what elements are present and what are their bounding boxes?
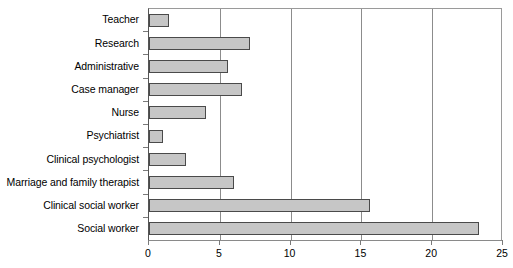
bar-slot (149, 194, 501, 217)
y-axis-label-teacher: Teacher (0, 8, 144, 31)
y-axis-label-clinical-psychologist: Clinical psychologist (0, 147, 144, 170)
bar-slot (149, 32, 501, 55)
bar-nurse (149, 106, 206, 119)
bar-teacher (149, 14, 169, 27)
plot-area (148, 8, 502, 240)
bar-research (149, 37, 250, 50)
x-tick-25 (502, 240, 503, 245)
bar-series (149, 9, 501, 240)
y-axis-label-research: Research (0, 31, 144, 54)
x-tick-label-5: 5 (216, 248, 222, 259)
bar-slot (149, 55, 501, 78)
x-tick-0 (148, 240, 149, 245)
x-tick-label-10: 10 (284, 248, 296, 259)
x-tick-label-25: 25 (496, 248, 508, 259)
bar-case-manager (149, 83, 242, 96)
bar-slot (149, 171, 501, 194)
bar-chart: Teacher Research Administrative Case man… (0, 0, 513, 268)
bar-slot (149, 78, 501, 101)
y-axis-label-marriage-and-family-therapist: Marriage and family therapist (0, 170, 144, 193)
x-axis-line (148, 240, 502, 241)
bar-administrative (149, 60, 228, 73)
bar-social-worker (149, 222, 479, 235)
x-tick-20 (431, 240, 432, 245)
bar-slot (149, 101, 501, 124)
bar-clinical-social-worker (149, 199, 370, 212)
bar-slot (149, 124, 501, 147)
bar-slot (149, 148, 501, 171)
bar-marriage-and-family-therapist (149, 176, 234, 189)
x-tick-label-0: 0 (145, 248, 151, 259)
y-axis-label-nurse: Nurse (0, 101, 144, 124)
bar-psychiatrist (149, 130, 163, 143)
x-tick-15 (360, 240, 361, 245)
y-axis-label-social-worker: Social worker (0, 217, 144, 240)
bar-slot (149, 217, 501, 240)
bar-slot (149, 9, 501, 32)
y-axis-label-administrative: Administrative (0, 54, 144, 77)
y-axis-category-labels: Teacher Research Administrative Case man… (0, 8, 144, 240)
y-axis-label-psychiatrist: Psychiatrist (0, 124, 144, 147)
x-tick-5 (219, 240, 220, 245)
y-axis-label-clinical-social-worker: Clinical social worker (0, 194, 144, 217)
y-axis-label-case-manager: Case manager (0, 78, 144, 101)
bar-clinical-psychologist (149, 153, 186, 166)
x-tick-label-20: 20 (425, 248, 437, 259)
x-tick-10 (290, 240, 291, 245)
x-tick-label-15: 15 (355, 248, 367, 259)
